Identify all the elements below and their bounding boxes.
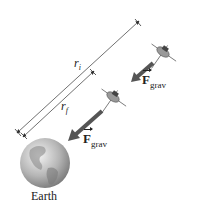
earth-globe [20,138,70,188]
initial-distance-line [15,19,141,136]
initial-distance-label: ri [74,56,81,72]
gravity-force-label-far: Fgrav [142,72,166,90]
earth-label: Earth [31,189,57,204]
gravity-force-label-near: Fgrav [83,131,107,149]
final-distance-label: rf [61,99,68,115]
diagram-canvas [0,0,198,215]
